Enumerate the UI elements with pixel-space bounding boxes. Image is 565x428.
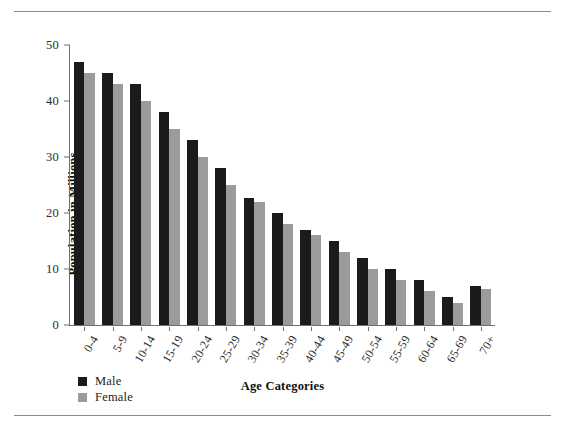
- x-axis-tick-label: 10-14: [131, 333, 158, 366]
- plot-area: 01020304050: [70, 45, 495, 325]
- bar-group: [244, 45, 265, 325]
- y-axis-tick: 0: [53, 318, 70, 333]
- x-axis-tick-mark: [453, 327, 454, 331]
- bar-group: [159, 45, 180, 325]
- bar-female: [141, 101, 152, 325]
- bar-male: [102, 73, 113, 325]
- bar-female: [368, 269, 379, 325]
- bar-male: [272, 213, 283, 325]
- bar-male: [442, 297, 453, 325]
- x-axis-tick-mark: [424, 327, 425, 331]
- y-axis-tick: 40: [46, 94, 70, 109]
- x-axis-tick-mark: [169, 327, 170, 331]
- bar-male: [244, 198, 255, 325]
- x-axis-tick-label: 70+: [476, 333, 499, 357]
- y-axis-tick-label: 20: [46, 206, 59, 221]
- legend-swatch-male-icon: [78, 377, 87, 386]
- y-axis-tick-label: 40: [46, 94, 59, 109]
- bar-group: [329, 45, 350, 325]
- x-axis-tick-mark: [481, 327, 482, 331]
- bar-group: [385, 45, 406, 325]
- x-axis-tick-label: 60-64: [415, 333, 442, 366]
- x-axis-tick-mark: [368, 327, 369, 331]
- legend-item-male: Male: [78, 373, 133, 389]
- bar-male: [159, 112, 170, 325]
- bar-group: [215, 45, 236, 325]
- y-axis-tick-label: 50: [46, 38, 59, 53]
- bar-group: [187, 45, 208, 325]
- bar-group: [130, 45, 151, 325]
- x-axis-tick-label: 5-9: [109, 333, 130, 355]
- bar-male: [385, 269, 396, 325]
- x-axis-tick-label: 55-59: [386, 333, 413, 366]
- x-axis-tick-label: 30-34: [245, 333, 272, 366]
- x-axis-tick-label: 50-54: [358, 333, 385, 366]
- bar-group: [272, 45, 293, 325]
- bar-female: [169, 129, 180, 325]
- legend-item-female: Female: [78, 389, 133, 405]
- y-axis-tick: 50: [46, 38, 70, 53]
- y-axis-tick-label: 0: [53, 318, 59, 333]
- x-axis-tick-label: 35-39: [273, 333, 300, 366]
- x-axis-tick-mark: [198, 327, 199, 331]
- bar-female: [254, 202, 265, 325]
- bar-female: [283, 224, 294, 325]
- bar-male: [215, 168, 226, 325]
- x-axis-tick-label: 0-4: [81, 333, 102, 355]
- bar-male: [187, 140, 198, 325]
- bar-group: [74, 45, 95, 325]
- bar-female: [113, 84, 124, 325]
- y-axis-tick: 20: [46, 206, 70, 221]
- bar-male: [357, 258, 368, 325]
- bar-group: [414, 45, 435, 325]
- bar-male: [329, 241, 340, 325]
- bar-male: [414, 280, 425, 325]
- legend-label-male: Male: [95, 374, 121, 389]
- bar-group: [442, 45, 463, 325]
- x-axis-line: [69, 325, 495, 326]
- x-axis-tick-label: 40-44: [301, 333, 328, 366]
- x-axis-tick-label: 45-49: [330, 333, 357, 366]
- bar-female: [481, 289, 492, 325]
- x-axis-tick-mark: [311, 327, 312, 331]
- bar-female: [339, 252, 350, 325]
- legend-label-female: Female: [95, 390, 133, 405]
- bar-female: [198, 157, 209, 325]
- x-axis-tick-mark: [339, 327, 340, 331]
- x-axis-tick-label: 25-29: [216, 333, 243, 366]
- y-axis-tick-label: 10: [46, 262, 59, 277]
- bar-group: [357, 45, 378, 325]
- bar-male: [470, 286, 481, 325]
- bar-female: [84, 73, 95, 325]
- x-axis-tick-label: 20-24: [188, 333, 215, 366]
- chart-legend: Male Female: [78, 373, 133, 405]
- x-axis-tick-mark: [254, 327, 255, 331]
- bar-male: [130, 84, 141, 325]
- x-axis-tick-mark: [226, 327, 227, 331]
- bar-female: [453, 303, 464, 325]
- y-axis-tick-label: 30: [46, 150, 59, 165]
- x-axis-tick-mark: [396, 327, 397, 331]
- top-horizontal-rule: [14, 11, 551, 12]
- y-axis-tick: 10: [46, 262, 70, 277]
- bar-group: [300, 45, 321, 325]
- bar-female: [424, 291, 435, 325]
- figure-container: Population in Millions 01020304050 0-45-…: [0, 0, 565, 428]
- bar-male: [74, 62, 85, 325]
- x-axis-tick-mark: [84, 327, 85, 331]
- legend-swatch-female-icon: [78, 393, 87, 402]
- bar-female: [226, 185, 237, 325]
- bar-series-group: [70, 45, 495, 325]
- bar-female: [311, 235, 322, 325]
- bottom-horizontal-rule: [14, 415, 551, 416]
- x-axis-tick-label: 65-69: [443, 333, 470, 366]
- bar-female: [396, 280, 407, 325]
- bar-group: [102, 45, 123, 325]
- y-axis-tick: 30: [46, 150, 70, 165]
- bar-male: [300, 230, 311, 325]
- x-axis-tick-mark: [283, 327, 284, 331]
- bar-group: [470, 45, 491, 325]
- x-axis-ticks: 0-45-910-1415-1920-2425-2930-3435-3940-4…: [70, 327, 495, 387]
- x-axis-tick-label: 15-19: [160, 333, 187, 366]
- x-axis-tick-mark: [141, 327, 142, 331]
